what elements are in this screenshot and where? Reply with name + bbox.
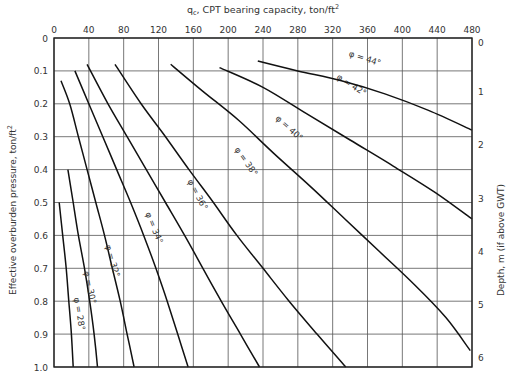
top-tick-label: 400 — [394, 25, 411, 35]
left-tick-label: 0.4 — [34, 165, 49, 175]
left-tick-label: 0.7 — [34, 264, 48, 274]
top-tick-label: 0 — [51, 25, 57, 35]
left-tick-label: 0.3 — [34, 132, 48, 142]
top-tick-label: 240 — [254, 25, 271, 35]
left-tick-label: 1.0 — [34, 363, 49, 373]
left-tick-label: 0.1 — [34, 66, 48, 76]
top-tick-label: 360 — [359, 25, 376, 35]
left-tick-label: 0.9 — [34, 330, 49, 340]
right-tick-label: 3 — [478, 194, 484, 204]
right-tick-label: 1 — [478, 87, 484, 97]
right-tick-label: 0 — [478, 38, 484, 48]
right-tick-label: 6 — [478, 353, 484, 363]
top-tick-label: 320 — [324, 25, 341, 35]
right-tick-label: 4 — [478, 247, 484, 257]
top-tick-label: 480 — [463, 25, 480, 35]
right-tick-label: 2 — [478, 140, 484, 150]
chart: φ = 28°φ = 30°φ = 32°φ = 34°φ = 36°φ = 3… — [0, 0, 512, 382]
top-tick-label: 80 — [118, 25, 130, 35]
top-tick-label: 40 — [83, 25, 95, 35]
left-axis-title: Effective overburden pressure, ton/ft2 — [6, 125, 18, 295]
right-tick-label: 5 — [478, 300, 484, 310]
left-tick-label: 0 — [42, 34, 48, 44]
left-tick-label: 0.2 — [34, 99, 48, 109]
top-tick-label: 120 — [150, 25, 167, 35]
left-tick-label: 0.8 — [34, 297, 49, 307]
top-tick-label: 160 — [185, 25, 202, 35]
top-tick-label: 280 — [289, 25, 306, 35]
top-tick-label: 440 — [429, 25, 446, 35]
left-tick-label: 0.5 — [34, 198, 48, 208]
left-tick-label: 0.6 — [34, 231, 49, 241]
right-axis-title: Depth, m (if above GWT) — [496, 184, 506, 296]
top-tick-label: 200 — [220, 25, 237, 35]
top-axis-title: qc, CPT bearing capacity, ton/ft2 — [187, 3, 339, 17]
